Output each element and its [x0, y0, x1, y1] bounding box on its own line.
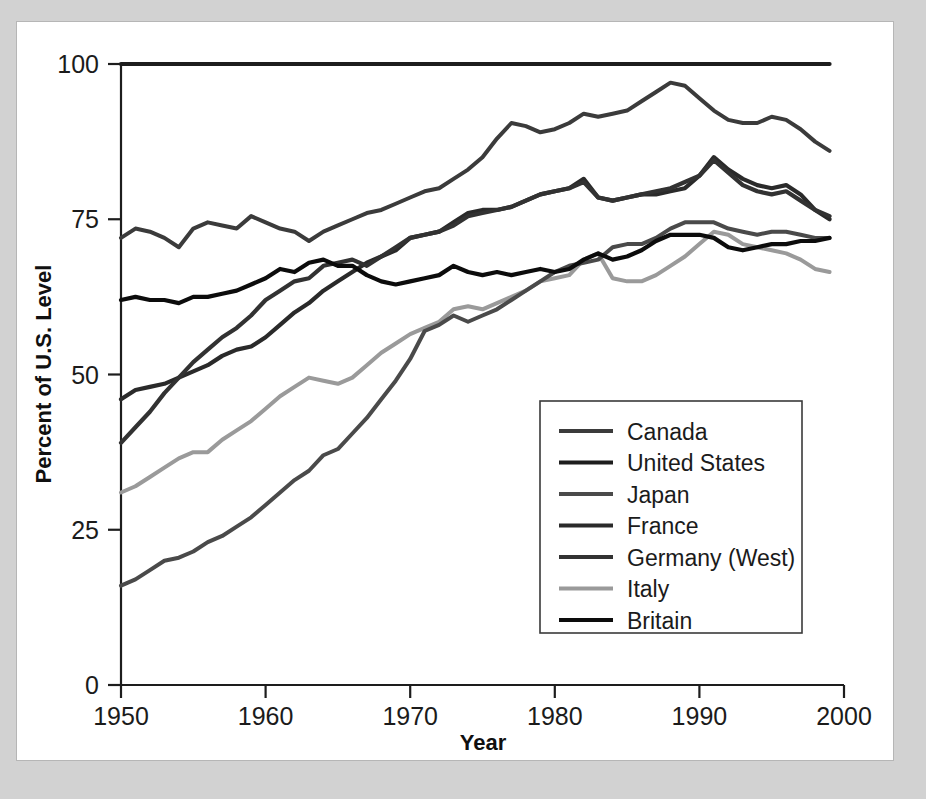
chart-legend: CanadaUnited StatesJapanFranceGermany (W…: [540, 401, 802, 634]
legend-label-united-states: United States: [627, 450, 765, 476]
x-axis-tick-labels: 195019601970198019902000: [93, 702, 872, 730]
x-axis-title: Year: [460, 730, 507, 755]
legend-label-germany-west: Germany (West): [627, 545, 795, 571]
x-tick-label: 1990: [672, 702, 728, 730]
line-chart: 0255075100 195019601970198019902000 Perc…: [17, 22, 893, 760]
legend-label-japan: Japan: [627, 482, 690, 508]
legend-label-italy: Italy: [627, 576, 670, 602]
y-tick-label: 100: [57, 50, 99, 78]
series-line-britain: [121, 235, 830, 303]
x-tick-label: 1970: [382, 702, 438, 730]
x-tick-label: 1980: [527, 702, 583, 730]
y-axis-ticks: [108, 64, 121, 685]
y-tick-label: 50: [71, 361, 99, 389]
y-tick-label: 75: [71, 205, 99, 233]
y-tick-label: 0: [85, 671, 99, 699]
series-line-france: [121, 157, 830, 399]
figure-card: 0255075100 195019601970198019902000 Perc…: [16, 21, 894, 761]
x-axis-ticks: [121, 685, 844, 698]
legend-label-britain: Britain: [627, 608, 692, 634]
y-tick-label: 25: [71, 516, 99, 544]
legend-label-canada: Canada: [627, 419, 708, 445]
legend-label-france: France: [627, 513, 699, 539]
y-axis-title: Percent of U.S. Level: [31, 265, 56, 484]
figure-frame: 0255075100 195019601970198019902000 Perc…: [0, 0, 926, 799]
x-tick-label: 1950: [93, 702, 149, 730]
x-tick-label: 2000: [816, 702, 872, 730]
y-axis-tick-labels: 0255075100: [57, 50, 99, 699]
x-tick-label: 1960: [238, 702, 294, 730]
